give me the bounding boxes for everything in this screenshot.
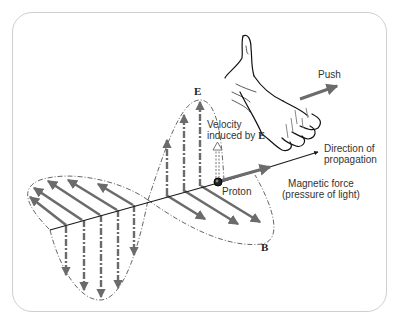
magnetic-force-label: Magnetic force (pressure of light) (282, 178, 360, 200)
proton-label: Proton (222, 186, 251, 197)
e-field-vectors-right (167, 102, 200, 195)
e-field-label: E (194, 86, 201, 97)
proton-icon (214, 178, 222, 186)
push-arrow (300, 86, 337, 99)
hand-shading (286, 108, 308, 138)
b-field-label: B (261, 242, 268, 253)
velocity-arrow (213, 142, 222, 178)
magnetic-force-arrow (220, 167, 270, 181)
push-label: Push (318, 69, 341, 80)
b-field-vectors-left (30, 180, 133, 225)
direction-of-propagation-label: Direction of propagation (324, 143, 377, 165)
velocity-label: Velocity induced by E (207, 119, 265, 141)
e-field-vectors-left (66, 205, 134, 297)
